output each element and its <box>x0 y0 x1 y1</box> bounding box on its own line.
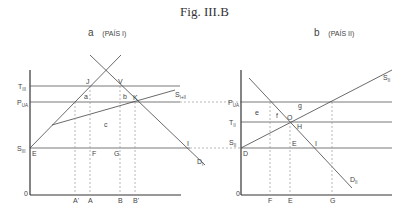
panel-b-area-f: f <box>276 112 278 119</box>
panel-b-area-g: g <box>298 102 302 110</box>
panel-a-point-e: E <box>32 150 37 157</box>
panel-b-x-label-f: F <box>268 197 272 204</box>
panel-a-x-label-b: B <box>118 197 123 204</box>
panel-b-origin: 0 <box>236 190 240 197</box>
panel-b: PUA TII SII 0 D O H E I e f g SII DII F … <box>228 70 392 204</box>
panel-b-label-t: TII <box>229 119 236 128</box>
panel-b-x-label-e: E <box>288 197 293 204</box>
panel-a-point-f: F <box>92 150 96 157</box>
panel-a-area-b: b <box>123 93 127 100</box>
panel-a-point-j: J <box>86 78 90 85</box>
panel-a-x-label-b-prime: B' <box>133 197 139 204</box>
panel-b-area-e: e <box>255 109 259 116</box>
panel-a-label-t: TIII <box>18 83 26 92</box>
panel-a-supply-curve <box>30 55 121 148</box>
panel-b-point-i: I <box>315 140 317 147</box>
diagram-canvas: TIII PUA SIII 0 E J V K F G I a b c SI+I… <box>0 0 409 212</box>
panel-a-combined-supply-label: SI+II <box>175 91 186 100</box>
panel-a-demand-curve <box>90 55 205 165</box>
panel-a-point-v: V <box>118 78 123 85</box>
panel-a-demand-label: DI <box>197 158 203 167</box>
panel-a-combined-supply-curve <box>52 90 175 125</box>
panel-b-x-label-g: G <box>330 197 335 204</box>
panel-b-point-h: H <box>297 123 302 130</box>
panel-b-label-p: PUA <box>228 99 239 108</box>
panel-a-x-label-a: A <box>88 197 93 204</box>
panel-a-area-c: c <box>104 121 108 128</box>
panel-b-point-e: E <box>292 140 297 147</box>
panel-a: TIII PUA SIII 0 E J V K F G I a b c SI+I… <box>17 55 241 204</box>
panel-a-origin: 0 <box>24 190 28 197</box>
panel-a-x-label-a-prime: A' <box>73 197 79 204</box>
panel-a-label-p: PUA <box>17 99 28 108</box>
panel-b-point-d: D <box>243 150 248 157</box>
panel-a-point-k: K <box>133 94 138 101</box>
panel-b-demand-curve <box>249 78 352 188</box>
panel-b-demand-label: DII <box>350 176 358 185</box>
panel-b-point-o: O <box>287 114 293 121</box>
panel-a-label-s: SIII <box>17 145 25 154</box>
panel-b-supply-label: SII <box>383 74 390 83</box>
panel-a-point-g: G <box>114 150 119 157</box>
panel-a-area-a: a <box>84 93 88 100</box>
panel-b-supply-curve <box>241 70 392 148</box>
panel-b-label-s: SII <box>229 139 236 148</box>
panel-a-point-i: I <box>187 140 189 147</box>
